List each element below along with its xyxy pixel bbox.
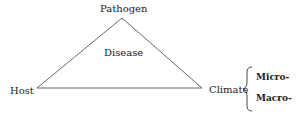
host-label: Host xyxy=(10,86,34,96)
micro-label: Micro- xyxy=(256,73,289,82)
macro-label: Macro- xyxy=(256,94,292,103)
pathogen-label: Pathogen xyxy=(100,4,147,14)
climate-label: Climate xyxy=(209,85,248,95)
disease-label: Disease xyxy=(104,48,143,58)
